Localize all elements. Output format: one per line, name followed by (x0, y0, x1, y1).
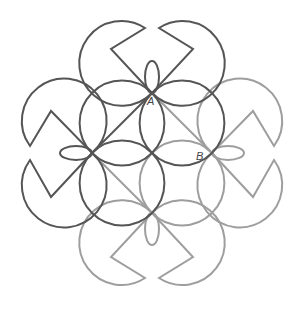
pacman-shape-top-left (79, 21, 152, 106)
pacman-shape-right-lower (197, 153, 282, 227)
pacman-shape-left-lower (22, 153, 107, 227)
pacman-shape-bottom-left (79, 200, 152, 285)
petal-top (145, 61, 159, 93)
petal-left (60, 146, 92, 160)
pacman-shape-right-upper (197, 79, 282, 153)
pacman-shape-bottom-right (152, 200, 225, 285)
diagonal-line-1 (152, 93, 212, 153)
point-label-b: B (196, 150, 203, 162)
point-label-a: A (146, 95, 154, 107)
pacman-shape-left-upper (22, 79, 107, 153)
light-layer (79, 79, 282, 285)
diagonal-line-0 (92, 93, 152, 153)
geometric-diagram: A B (0, 0, 301, 310)
dark-layer (22, 21, 225, 227)
pacman-shape-top-right (152, 21, 225, 106)
